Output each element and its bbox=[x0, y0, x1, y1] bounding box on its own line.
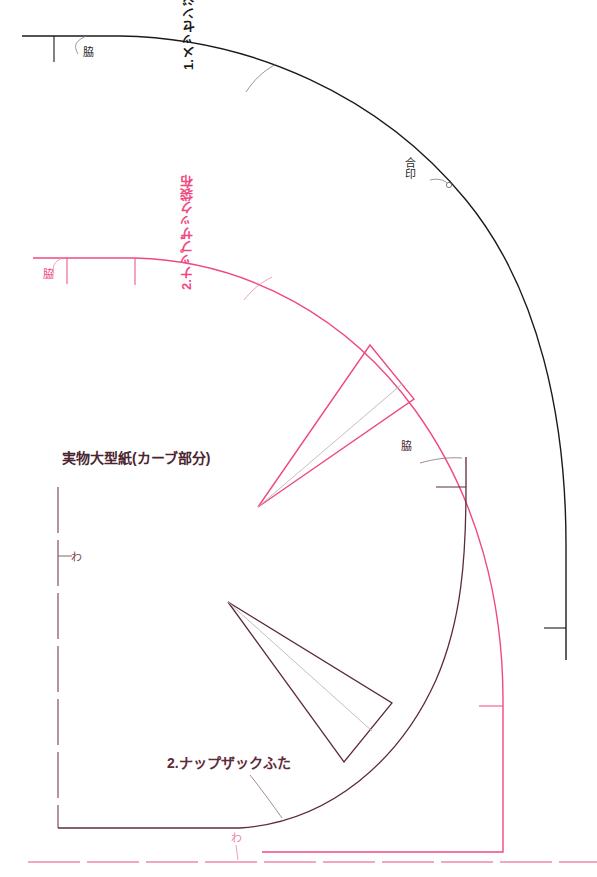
pattern-sheet: 脇 1.メッセンジャーバッグ袋布 合印 脇 2.ナップザック袋布 実物大型紙(カ… bbox=[0, 0, 597, 877]
pink-bottom-fold-leader bbox=[236, 845, 238, 860]
label-fold-bottom: わ bbox=[231, 829, 242, 845]
label-side-black: 脇 bbox=[80, 46, 96, 57]
page-title: 実物大型紙(カーブ部分) bbox=[62, 447, 210, 467]
pink-main-curve bbox=[135, 258, 503, 700]
maroon-dart-center-guide bbox=[228, 602, 372, 731]
maroon-name-leader bbox=[250, 775, 282, 818]
bottom-fold-group bbox=[28, 845, 597, 862]
label-side-pink: 脇 bbox=[40, 268, 56, 279]
label-fold-left: わ bbox=[71, 548, 82, 564]
notch-leader bbox=[430, 179, 447, 183]
black-main-curve bbox=[120, 36, 566, 545]
maroon-dart bbox=[228, 602, 392, 762]
piece-messenger-bag-body bbox=[22, 36, 566, 660]
pink-lower-edge bbox=[262, 700, 503, 852]
pink-dart bbox=[258, 345, 414, 507]
label-piece-knapsack-flap: 2.ナップザックふた bbox=[167, 752, 291, 772]
notch-circle-icon bbox=[446, 182, 451, 187]
maroon-side-leader bbox=[420, 458, 462, 463]
piece-knapsack-flap bbox=[58, 457, 466, 828]
pattern-drawing bbox=[0, 0, 597, 877]
label-notch-black: 合印 bbox=[402, 157, 418, 179]
black-name-leader bbox=[246, 64, 276, 92]
label-side-maroon: 脇 bbox=[398, 440, 414, 451]
maroon-main-curve bbox=[240, 487, 466, 828]
label-piece-messenger-bag-body: 1.メッセンジャーバッグ袋布 bbox=[179, 0, 198, 70]
label-piece-knapsack-body: 2.ナップザック袋布 bbox=[177, 175, 196, 290]
